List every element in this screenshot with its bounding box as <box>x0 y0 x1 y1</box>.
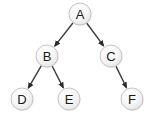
node-circle <box>121 88 143 110</box>
tree-edge-b-d <box>28 66 41 88</box>
node-circle <box>100 45 122 67</box>
node-circle <box>36 45 58 67</box>
tree-node-f[interactable]: F <box>121 88 144 111</box>
node-circle <box>11 88 33 110</box>
tree-node-a[interactable]: A <box>69 3 92 26</box>
tree-edge-a-c <box>87 23 104 46</box>
nodes-layer: ABCDEF <box>11 3 144 111</box>
tree-diagram: ABCDEF <box>0 0 149 115</box>
tree-node-c[interactable]: C <box>100 45 123 68</box>
tree-edge-a-b <box>55 23 73 46</box>
node-circle <box>58 88 80 110</box>
tree-diagram-canvas: ABCDEF <box>0 0 149 115</box>
tree-node-e[interactable]: E <box>58 88 81 111</box>
tree-node-d[interactable]: D <box>11 88 34 111</box>
tree-node-b[interactable]: B <box>36 45 59 68</box>
node-circle <box>69 3 91 25</box>
tree-edge-b-e <box>52 66 63 88</box>
tree-edge-c-f <box>116 66 126 87</box>
